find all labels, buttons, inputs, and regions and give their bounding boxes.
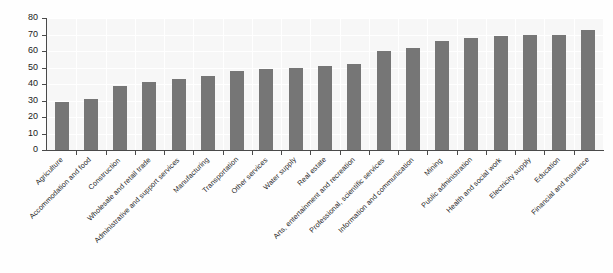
x-axis-tick-mark bbox=[223, 151, 224, 155]
gridline-vertical bbox=[223, 18, 224, 150]
x-axis-category-label: Accommodation and food bbox=[28, 156, 92, 220]
bar bbox=[230, 71, 244, 150]
bar bbox=[406, 48, 420, 150]
gridline-horizontal bbox=[47, 35, 603, 36]
gridline-vertical bbox=[252, 18, 253, 150]
y-axis-line bbox=[46, 18, 47, 151]
x-axis-tick-mark bbox=[398, 151, 399, 155]
x-axis-line bbox=[46, 150, 604, 151]
x-axis-tick-mark bbox=[281, 151, 282, 155]
gridline-vertical bbox=[164, 18, 165, 150]
gridline-vertical bbox=[340, 18, 341, 150]
gridline-vertical bbox=[515, 18, 516, 150]
bar bbox=[318, 66, 332, 150]
x-axis-tick-mark bbox=[544, 151, 545, 155]
gridline-vertical bbox=[544, 18, 545, 150]
bar bbox=[84, 99, 98, 150]
gridline-vertical bbox=[369, 18, 370, 150]
x-axis-tick-mark bbox=[164, 151, 165, 155]
x-axis-tick-mark bbox=[369, 151, 370, 155]
y-axis-tick-mark bbox=[42, 18, 46, 19]
gridline-vertical bbox=[310, 18, 311, 150]
x-axis-tick-mark bbox=[486, 151, 487, 155]
x-axis-tick-mark bbox=[106, 151, 107, 155]
y-axis-tick-label: 70 bbox=[16, 30, 38, 39]
gridline-vertical bbox=[574, 18, 575, 150]
gridline-vertical bbox=[106, 18, 107, 150]
y-axis-tick-label: 10 bbox=[16, 129, 38, 138]
y-axis-tick-label: 30 bbox=[16, 96, 38, 105]
plot-background bbox=[47, 18, 603, 150]
x-axis-tick-mark bbox=[457, 151, 458, 155]
x-axis-category-label: Health and social work bbox=[445, 156, 503, 214]
bar bbox=[142, 82, 156, 150]
x-axis-tick-mark bbox=[574, 151, 575, 155]
gridline-horizontal bbox=[47, 18, 603, 19]
bar-chart: 01020304050607080 AgricultureAccommodati… bbox=[0, 0, 613, 273]
x-axis-tick-mark bbox=[252, 151, 253, 155]
y-axis-tick-mark bbox=[42, 134, 46, 135]
gridline-vertical bbox=[281, 18, 282, 150]
gridline-vertical bbox=[135, 18, 136, 150]
bar bbox=[581, 30, 595, 150]
bar bbox=[55, 102, 69, 150]
plot-area bbox=[47, 18, 603, 150]
x-axis-tick-mark bbox=[515, 151, 516, 155]
bar bbox=[259, 69, 273, 150]
bar bbox=[523, 35, 537, 151]
y-axis-tick-mark bbox=[42, 101, 46, 102]
y-axis-tick-mark bbox=[42, 68, 46, 69]
x-axis-tick-mark bbox=[427, 151, 428, 155]
x-axis-tick-mark bbox=[310, 151, 311, 155]
x-axis-tick-mark bbox=[340, 151, 341, 155]
x-axis-tick-mark bbox=[193, 151, 194, 155]
bar bbox=[201, 76, 215, 150]
gridline-horizontal bbox=[47, 51, 603, 52]
x-axis-category-label: Financial and insurance bbox=[530, 156, 590, 216]
bar bbox=[347, 64, 361, 150]
y-axis-tick-mark bbox=[42, 84, 46, 85]
gridline-vertical bbox=[427, 18, 428, 150]
bar bbox=[464, 38, 478, 150]
bar bbox=[289, 68, 303, 151]
bar bbox=[552, 35, 566, 151]
y-axis-tick-mark bbox=[42, 117, 46, 118]
bar bbox=[172, 79, 186, 150]
y-axis-tick-mark bbox=[42, 150, 46, 151]
bar bbox=[435, 41, 449, 150]
gridline-vertical bbox=[193, 18, 194, 150]
y-axis-tick-label: 0 bbox=[16, 145, 38, 154]
x-axis-tick-mark bbox=[135, 151, 136, 155]
y-axis-tick-mark bbox=[42, 35, 46, 36]
y-axis-tick-mark bbox=[42, 51, 46, 52]
y-axis-tick-label: 80 bbox=[16, 13, 38, 22]
bar bbox=[494, 36, 508, 150]
y-axis-tick-label: 40 bbox=[16, 79, 38, 88]
x-axis-category-label: Education bbox=[533, 156, 561, 184]
bar bbox=[113, 86, 127, 150]
y-axis-tick-label: 20 bbox=[16, 112, 38, 121]
bar bbox=[377, 51, 391, 150]
y-axis-tick-label: 50 bbox=[16, 63, 38, 72]
gridline-vertical bbox=[76, 18, 77, 150]
gridline-vertical bbox=[486, 18, 487, 150]
x-axis-category-label: Mining bbox=[423, 156, 443, 176]
gridline-vertical bbox=[457, 18, 458, 150]
gridline-vertical bbox=[398, 18, 399, 150]
x-axis-tick-mark bbox=[76, 151, 77, 155]
y-axis-tick-label: 60 bbox=[16, 46, 38, 55]
